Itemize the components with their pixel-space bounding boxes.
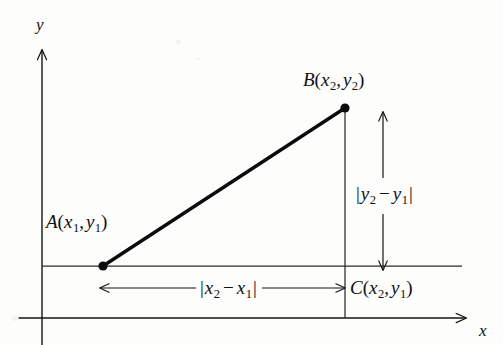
point-c-comma: , — [384, 277, 391, 298]
point-a-name: A — [46, 211, 58, 232]
scan-speckle — [176, 40, 181, 44]
scan-speckle — [196, 57, 200, 60]
x-axis-label: x — [479, 322, 487, 339]
point-a-comma: , — [79, 211, 86, 232]
point-b-comma: , — [336, 69, 343, 90]
horizontal-distance-label: |x2−x1| — [199, 278, 258, 301]
point-a-close-paren: ) — [101, 211, 107, 232]
point-b-name: B — [303, 69, 315, 90]
vertical-second-var: y — [393, 183, 401, 204]
vertical-first-sub: 2 — [369, 193, 376, 207]
scan-speckle — [12, 316, 19, 321]
horizontal-second-var: x — [237, 277, 245, 298]
vertical-operator: − — [376, 183, 393, 204]
point-b-close-paren: ) — [358, 69, 364, 90]
horizontal-first-var: x — [205, 277, 213, 298]
vertical-first-var: y — [361, 183, 369, 204]
vertical-second-sub: 1 — [401, 193, 408, 207]
vertical-close-bar: | — [408, 183, 414, 204]
horizontal-close-bar: | — [252, 277, 258, 298]
point-c-label: C(x2,y1) — [350, 278, 413, 301]
segment-ab — [103, 108, 345, 266]
point-c-name: C — [350, 277, 363, 298]
point-a-label: A(x1,y1) — [46, 212, 107, 235]
y-axis-label: y — [36, 16, 44, 33]
point-c-close-paren: ) — [406, 277, 412, 298]
horizontal-second-sub: 1 — [245, 287, 252, 301]
horizontal-operator: − — [220, 277, 237, 298]
horizontal-first-sub: 2 — [213, 287, 220, 301]
distance-formula-figure: y x A(x1,y1) B(x2,y2) C(x2,y1) |x2−x1| |… — [0, 0, 503, 345]
vertical-distance-label: |y2−y1| — [355, 184, 414, 207]
point-b-label: B(x2,y2) — [303, 70, 364, 93]
point-b-dot — [340, 103, 349, 112]
point-a-dot — [98, 261, 107, 270]
